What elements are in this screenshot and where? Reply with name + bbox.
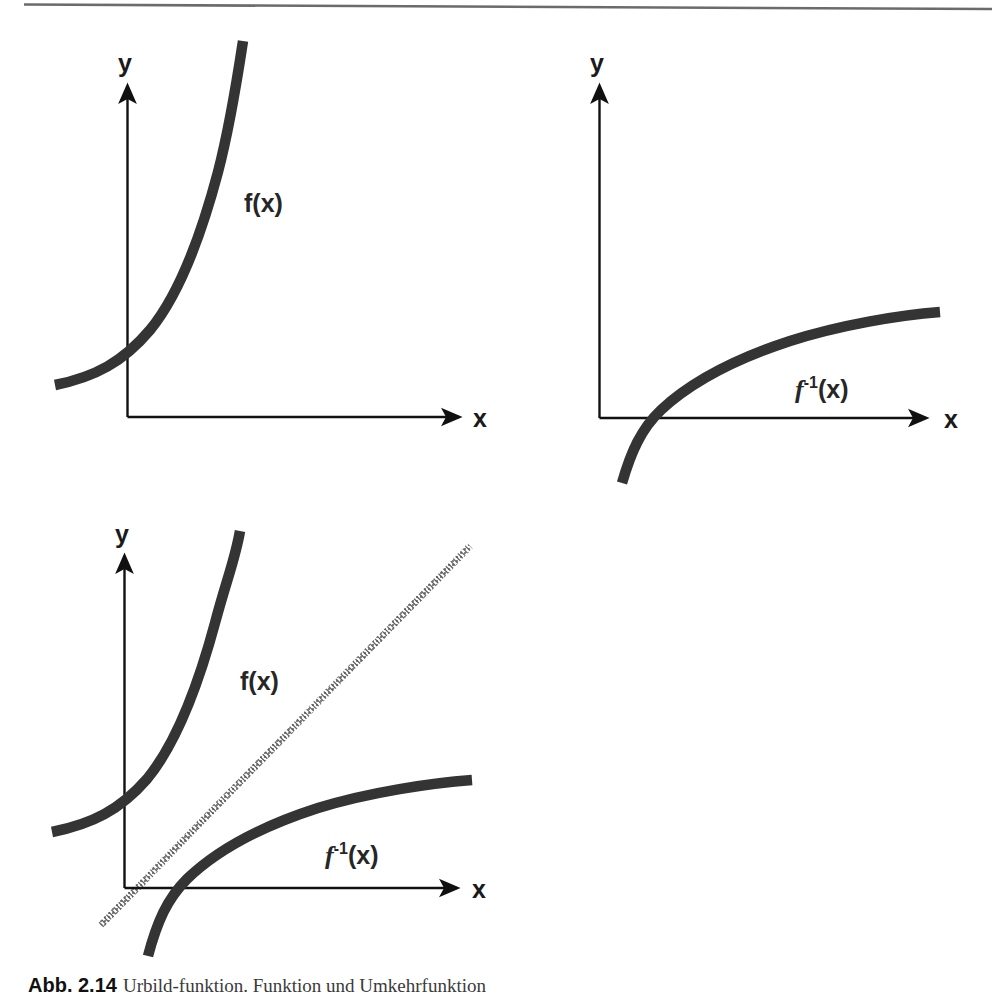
panel-inverse-curve-label: f-1(x) bbox=[795, 374, 848, 404]
panel-forward-x-label: x bbox=[473, 404, 487, 432]
panel-combined-identity-line bbox=[101, 546, 470, 925]
figure-caption: Abb. 2.14Urbild-funktion. Funktion und U… bbox=[28, 974, 988, 996]
figure-canvas: y x f(x) y x f-1(x) bbox=[0, 0, 1008, 996]
panel-forward-curve-label: f(x) bbox=[244, 189, 283, 217]
figure-caption-number: Abb. 2.14 bbox=[28, 974, 117, 996]
inverse-label-exponent: -1 bbox=[804, 374, 818, 391]
panel-combined-y-label: y bbox=[115, 520, 129, 548]
panel-combined-curve-label-f: f(x) bbox=[240, 667, 279, 695]
svg-text:f-1(x): f-1(x) bbox=[795, 374, 848, 404]
header-rule bbox=[24, 5, 992, 10]
panel-combined-x-label: x bbox=[472, 875, 486, 903]
panel-combined-curve-f bbox=[52, 531, 240, 832]
figure-caption-body: Urbild-funktion. Funktion und Umkehrfunk… bbox=[123, 975, 486, 996]
combined-inverse-label-arg: (x) bbox=[348, 841, 379, 869]
combined-inverse-label-exponent: -1 bbox=[334, 840, 348, 857]
panel-inverse-y-label: y bbox=[590, 49, 604, 77]
panel-combined-curve-finv bbox=[148, 780, 472, 956]
inverse-label-arg: (x) bbox=[818, 375, 849, 403]
panel-forward-y-label: y bbox=[118, 49, 132, 77]
svg-text:f-1(x): f-1(x) bbox=[325, 840, 378, 870]
figure-root: y x f(x) y x f-1(x) bbox=[0, 0, 1008, 996]
panel-forward-curve-f bbox=[55, 41, 243, 385]
panel-forward: y x f(x) bbox=[55, 41, 487, 432]
panel-inverse-x-label: x bbox=[944, 405, 958, 433]
panel-inverse: y x f-1(x) bbox=[590, 49, 958, 483]
panel-combined-curve-label-finv: f-1(x) bbox=[325, 840, 378, 870]
panel-combined: y x f(x) f-1(x) bbox=[52, 520, 486, 956]
panel-inverse-curve-finv bbox=[622, 312, 940, 483]
